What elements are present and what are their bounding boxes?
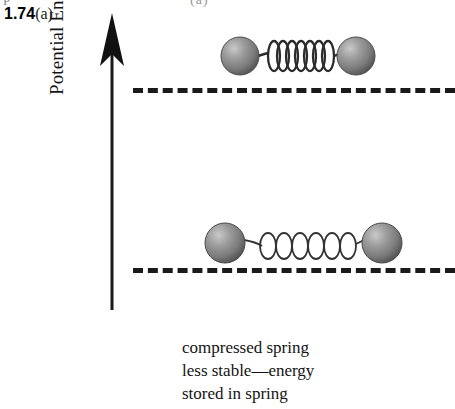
- sphere-upper-right: [337, 37, 375, 75]
- compressed-spring-assembly: [221, 37, 375, 75]
- relaxed-spring-coils: [260, 233, 356, 259]
- sphere-lower-right: [362, 223, 402, 263]
- figure-container: P (a) 1.74(a) Potential Energy: [0, 0, 455, 409]
- caption-line-3: stored in spring: [182, 382, 447, 405]
- compressed-spring-coils: [268, 41, 334, 71]
- sphere-lower-left: [205, 223, 245, 263]
- caption-line-1: compressed spring: [182, 336, 447, 359]
- sphere-upper-left: [221, 37, 259, 75]
- relaxed-spring-assembly: [205, 223, 402, 263]
- caption-line-2: less stable—energy: [182, 359, 447, 382]
- figure-caption: compressed spring less stable—energy sto…: [182, 336, 447, 405]
